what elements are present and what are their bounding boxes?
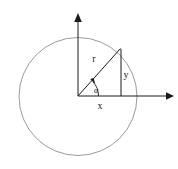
diagram-canvas: r y x α [0,0,178,169]
vertical-leg-label: y [124,69,129,80]
trigonometry-diagram: r y x α [0,0,178,169]
horizontal-leg-label: x [98,100,103,111]
diagram-background [0,0,178,169]
